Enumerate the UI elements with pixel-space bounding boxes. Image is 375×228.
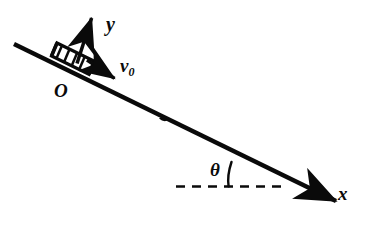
- incline-angle-arc: [228, 162, 231, 186]
- incline-surface: [14, 44, 336, 201]
- physics-diagram-figure: y v0 O θ x: [0, 0, 375, 228]
- origin-label: O: [54, 81, 68, 100]
- diagram-canvas: [0, 0, 375, 228]
- velocity-subscript: 0: [128, 65, 134, 79]
- y-axis-label: y: [106, 14, 115, 34]
- incline-line-with-x-arrow: [14, 44, 336, 201]
- angle-arc-stroke: [228, 162, 231, 186]
- x-axis-label: x: [338, 184, 348, 203]
- incline-angle-label: θ: [210, 160, 220, 179]
- initial-velocity-label: v0: [120, 56, 134, 78]
